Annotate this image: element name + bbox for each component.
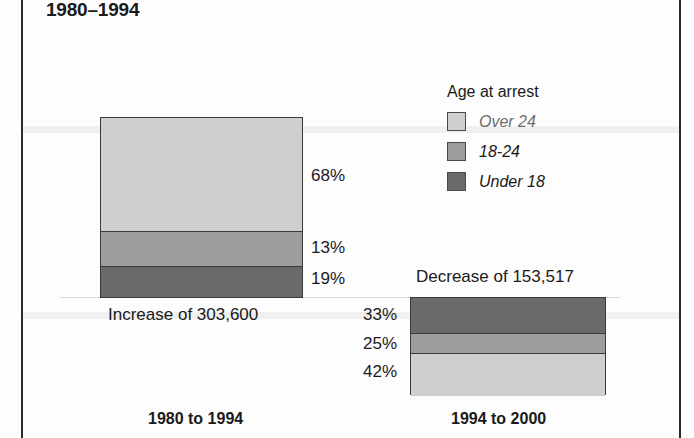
bar-segment-under-18[interactable]	[411, 298, 605, 334]
bar-segment-18-24[interactable]	[101, 232, 302, 267]
category-label-1980-to-1994: 1980 to 1994	[148, 410, 243, 428]
legend-swatch-icon	[447, 172, 466, 191]
bar-value-label-18-24-left: 13%	[311, 238, 345, 258]
bar-value-label-over-24-right: 42%	[363, 362, 397, 382]
bar-caption-increase: Increase of 303,600	[108, 305, 258, 325]
stacked-bar-1994-2000[interactable]	[410, 297, 606, 395]
stacked-bar-1980-1994[interactable]	[100, 117, 303, 298]
bar-segment-over-24[interactable]	[101, 118, 302, 232]
legend: Age at arrest Over 24 18-24 Under 18	[447, 83, 545, 201]
legend-item-label: 18-24	[479, 143, 520, 161]
legend-item-18-24[interactable]: 18-24	[447, 141, 545, 162]
page-title: 1980–1994	[46, 0, 139, 21]
legend-swatch-icon	[447, 112, 466, 131]
legend-item-over-24[interactable]: Over 24	[447, 111, 545, 132]
bar-value-label-over-24-left: 68%	[311, 166, 345, 186]
legend-title: Age at arrest	[447, 83, 545, 101]
bar-value-label-under-18-left: 19%	[311, 269, 345, 289]
bar-segment-under-18[interactable]	[101, 267, 302, 297]
bar-caption-decrease: Decrease of 153,517	[416, 267, 574, 287]
category-label-1994-to-2000: 1994 to 2000	[451, 410, 546, 428]
bar-segment-18-24[interactable]	[411, 334, 605, 354]
bar-value-label-under-18-right: 33%	[363, 305, 397, 325]
bar-value-label-18-24-right: 25%	[363, 334, 397, 354]
chart-figure: 1980–1994 68% 13% 19% Increase of 303,60…	[0, 0, 694, 438]
legend-item-label: Under 18	[479, 173, 545, 191]
legend-item-under-18[interactable]: Under 18	[447, 171, 545, 192]
page-rule-left	[21, 0, 23, 438]
legend-swatch-icon	[447, 142, 466, 161]
bar-segment-over-24[interactable]	[411, 354, 605, 396]
legend-item-label: Over 24	[479, 113, 536, 131]
page-rule-right	[679, 0, 681, 438]
